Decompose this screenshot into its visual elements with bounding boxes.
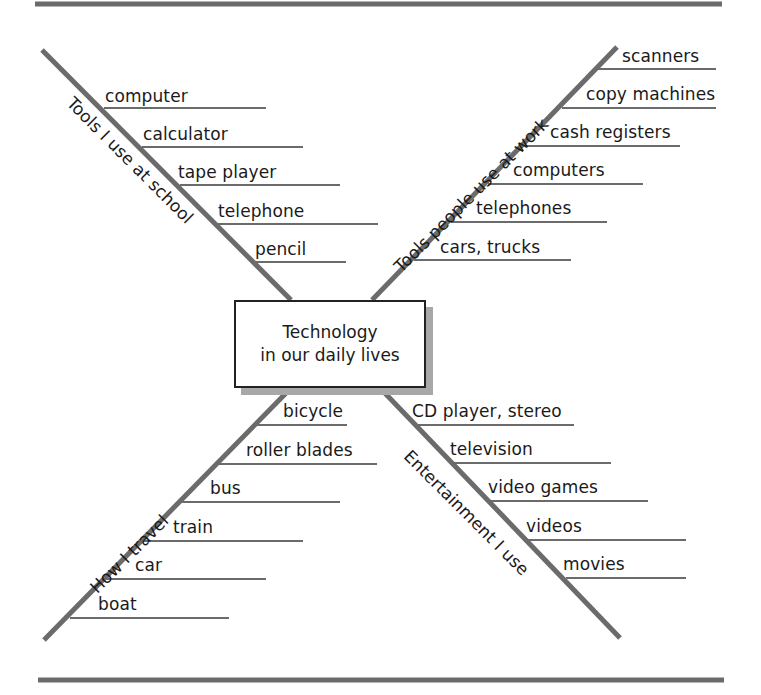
item-label: boat [98, 594, 137, 614]
item-label: movies [563, 554, 625, 574]
item-label: scanners [622, 46, 699, 66]
item-label: cash registers [550, 122, 671, 142]
item-label: CD player, stereo [412, 401, 562, 421]
item-label: video games [488, 477, 598, 497]
center-topic-line-2: in our daily lives [260, 344, 399, 367]
item-label: cars, trucks [440, 237, 540, 257]
item-label: telephone [218, 201, 304, 221]
item-label: bus [210, 478, 241, 498]
item-label: roller blades [246, 440, 353, 460]
item-label: television [450, 439, 533, 459]
item-label: computer [105, 86, 188, 106]
item-label: pencil [255, 239, 306, 259]
item-label: train [173, 517, 213, 537]
item-label: tape player [178, 162, 276, 182]
item-label: bicycle [283, 401, 343, 421]
item-label: computers [513, 160, 605, 180]
item-label: telephones [476, 198, 571, 218]
item-label: car [135, 555, 162, 575]
item-label: videos [526, 516, 582, 536]
item-label: calculator [143, 124, 228, 144]
center-topic-line-1: Technology [282, 321, 377, 344]
center-topic-box: Technology in our daily lives [234, 300, 426, 388]
item-label: copy machines [586, 84, 715, 104]
